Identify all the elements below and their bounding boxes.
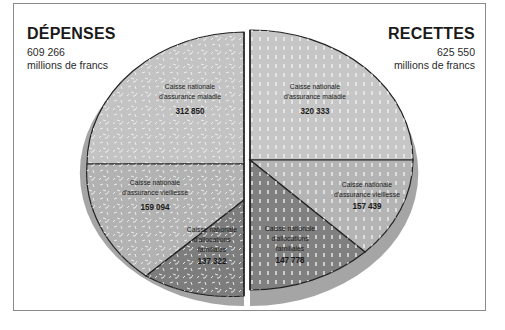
label-line: Caisse nationale	[178, 225, 246, 235]
left-label-maladie: Caisse nationale d'assurance maladie 312…	[148, 82, 233, 116]
label-line: d'assurance maladie	[148, 92, 233, 102]
right-label-vieillesse: Caisse nationale d'assurance vieillesse …	[320, 180, 414, 211]
label-line: d'allocations	[178, 235, 246, 245]
label-line: d'assurance maladie	[273, 92, 358, 102]
label-line: Caisse nationale	[273, 82, 358, 92]
label-line: familiales	[256, 244, 324, 254]
label-value: 147 778	[256, 255, 324, 265]
label-value: 137 322	[178, 256, 246, 266]
left-label-vieillesse: Caisse nationale d'assurance vieillesse …	[108, 178, 202, 212]
right-label-maladie: Caisse nationale d'assurance maladie 320…	[273, 82, 358, 116]
label-line: d'allocations	[256, 234, 324, 244]
left-total-value: 609 266	[27, 46, 108, 59]
left-total: 609 266 millions de francs	[27, 46, 108, 72]
label-value: 159 094	[108, 202, 202, 212]
label-value: 312 850	[148, 106, 233, 116]
label-line: Caisse nationale	[108, 178, 202, 188]
label-line: Caisse nationale	[320, 180, 414, 190]
left-title: DÉPENSES	[27, 25, 116, 43]
label-line: Caisse nationale	[256, 224, 324, 234]
right-label-allocations: Caisse nationale d'allocations familiale…	[256, 224, 324, 265]
label-line: Caisse nationale	[148, 82, 233, 92]
label-value: 320 333	[273, 106, 358, 116]
right-total-unit: millions de francs	[394, 59, 475, 72]
right-total: 625 550 millions de francs	[394, 46, 475, 72]
left-total-unit: millions de francs	[27, 59, 108, 72]
right-title: RECETTES	[388, 25, 475, 43]
label-line: familiales	[178, 245, 246, 255]
right-total-value: 625 550	[394, 46, 475, 59]
label-line: d'assurance vieillesse	[108, 188, 202, 198]
label-value: 157 439	[320, 201, 414, 211]
left-label-allocations: Caisse nationale d'allocations familiale…	[178, 225, 246, 266]
label-line: d'assurance vieillesse	[320, 190, 414, 200]
